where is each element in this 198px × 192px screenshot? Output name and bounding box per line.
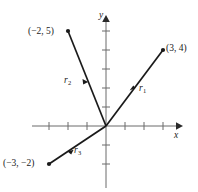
vector-label-r3-subscript: 3: [78, 149, 81, 156]
vector-label-r3: r3: [74, 146, 81, 156]
vector-label-r2-subscript: 2: [68, 79, 71, 86]
point-marker-r1: [161, 48, 165, 52]
vector-diagram-figure: (−2, 5) (3, 4) (−3, −2) r2 r1 r3 y x: [0, 0, 198, 192]
point-marker-r2: [66, 29, 70, 33]
y-axis-label: y: [99, 11, 103, 21]
vector-r1: [106, 48, 165, 126]
x-axis-arrowhead: [176, 122, 183, 130]
y-axis-arrowhead: [102, 15, 110, 22]
vector-label-r1: r1: [139, 84, 146, 94]
vector-r2: [66, 29, 106, 126]
vector-label-r2: r2: [64, 76, 71, 86]
point-label-r3: (−3, −2): [3, 159, 34, 169]
x-axis-label: x: [174, 131, 178, 141]
point-marker-r3: [47, 162, 51, 166]
point-label-r2: (−2, 5): [28, 27, 54, 37]
vector-label-r1-subscript: 1: [143, 87, 146, 94]
point-label-r1: (3, 4): [166, 44, 187, 54]
